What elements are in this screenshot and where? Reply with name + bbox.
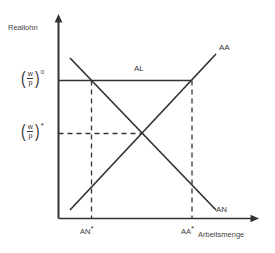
aa-label: AA bbox=[219, 44, 230, 52]
right-paren-eq: ) bbox=[35, 124, 40, 138]
left-paren-high: ( bbox=[21, 71, 26, 85]
wage-high-numerator: w bbox=[27, 70, 34, 78]
x-tick-aa-text: AA bbox=[181, 227, 191, 236]
x-tick-an-text: AN bbox=[80, 227, 90, 236]
fraction-high: w p bbox=[26, 70, 34, 87]
wage-high-denominator: p bbox=[27, 78, 33, 87]
wage-eq-superscript: * bbox=[41, 121, 44, 130]
wage-equilibrium-label: ( w p ) * bbox=[20, 123, 44, 140]
x-axis-title: Arbeitsmenge bbox=[198, 231, 244, 239]
y-axis-title: Reallohn bbox=[8, 24, 38, 32]
left-paren-eq: ( bbox=[21, 124, 26, 138]
x-tick-an-superscript: * bbox=[90, 224, 93, 233]
x-tick-an: AN* bbox=[80, 228, 94, 236]
labour-market-diagram: Reallohn Arbeitsmenge ( w p ) 0 ( w p ) … bbox=[0, 0, 275, 253]
fraction-eq: w p bbox=[26, 123, 34, 140]
wage-high-superscript: 0 bbox=[41, 69, 44, 75]
x-tick-aa: AA* bbox=[181, 228, 194, 236]
al-label: AL bbox=[134, 65, 144, 73]
y-axis bbox=[55, 14, 63, 219]
x-tick-aa-superscript: * bbox=[191, 224, 194, 233]
wage-high-label: ( w p ) 0 bbox=[20, 70, 44, 87]
an-label: AN bbox=[216, 206, 227, 214]
wage-eq-denominator: p bbox=[27, 131, 33, 140]
x-axis bbox=[59, 215, 260, 223]
wage-eq-numerator: w bbox=[27, 123, 34, 131]
right-paren-high: ) bbox=[35, 71, 40, 85]
